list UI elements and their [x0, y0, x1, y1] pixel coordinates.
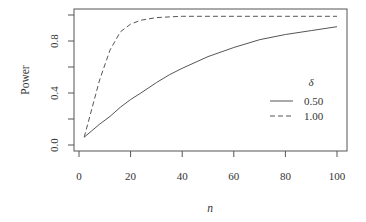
x-tick-label: 0 — [76, 170, 82, 182]
plot-box — [74, 9, 347, 151]
x-axis-title: n — [207, 202, 213, 214]
power-curve-chart: 0.00.40.8 020406080100 Power n δ 0.50 1.… — [0, 0, 366, 222]
y-axis: 0.00.40.8 — [48, 15, 74, 152]
legend: δ 0.50 1.00 — [270, 76, 324, 122]
y-tick-label: 0.8 — [48, 34, 60, 48]
y-tick-label: 0.0 — [48, 138, 60, 152]
y-axis-title: Power — [19, 65, 31, 95]
y-tick-label: 0.4 — [48, 86, 60, 100]
legend-label-0: 0.50 — [304, 95, 324, 107]
x-tick-label: 80 — [280, 170, 292, 182]
x-tick-label: 40 — [177, 170, 189, 182]
legend-label-1: 1.00 — [304, 110, 324, 122]
x-axis: 020406080100 — [76, 151, 346, 182]
series-layer — [84, 16, 337, 137]
legend-title: δ — [308, 76, 314, 88]
series-line-0.50 — [84, 27, 337, 138]
x-tick-label: 60 — [228, 170, 240, 182]
x-tick-label: 100 — [329, 170, 346, 182]
x-tick-label: 20 — [125, 170, 137, 182]
series-line-1.00 — [84, 16, 337, 137]
